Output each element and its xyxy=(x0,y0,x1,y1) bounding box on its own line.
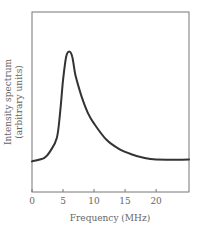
y-axis-label-line-2: (arbitrary units) xyxy=(14,65,24,139)
x-tick-label: 0 xyxy=(29,196,35,206)
x-axis-label: Frequency (MHz) xyxy=(70,213,150,223)
x-tick-label: 10 xyxy=(88,196,100,206)
x-axis-tick-labels: 05101520 xyxy=(29,196,162,206)
x-tick-label: 15 xyxy=(119,196,131,206)
y-axis-label-line-1: Intensity spectrum xyxy=(3,58,13,145)
x-tick-label: 20 xyxy=(150,196,162,206)
plot-frame xyxy=(32,12,189,192)
spectrum-curve xyxy=(32,52,189,162)
x-tick-label: 5 xyxy=(60,196,66,206)
intensity-spectrum-chart: 05101520 Frequency (MHz) Intensity spect… xyxy=(0,0,198,231)
y-axis-label: Intensity spectrum (arbitrary units) xyxy=(3,58,24,145)
